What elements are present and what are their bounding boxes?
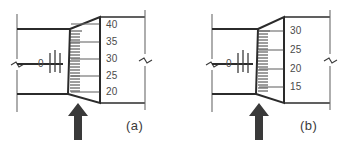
panel-b-caption: (b) xyxy=(300,118,317,133)
panel-a-drum-reading: 35 xyxy=(106,36,118,47)
figure-background xyxy=(0,0,349,151)
panel-b-drum-reading: 25 xyxy=(290,44,302,55)
panel-b-thimble xyxy=(256,17,284,103)
panel-a-thimble xyxy=(68,17,100,103)
panel-a-drum-reading: 20 xyxy=(106,86,118,97)
micrometer-scale-figure xyxy=(0,0,349,151)
panel-a-zero-label: 0 xyxy=(38,58,44,69)
panel-b-drum-reading: 15 xyxy=(290,81,302,92)
panel-b-drum-reading: 20 xyxy=(290,63,302,74)
panel-a-drum-reading: 30 xyxy=(106,53,118,64)
panel-a-drum-reading: 25 xyxy=(106,70,118,81)
panel-a-drum-reading: 40 xyxy=(106,19,118,30)
panel-b-zero-label: 0 xyxy=(226,58,232,69)
panel-a-caption: (a) xyxy=(126,118,143,133)
panel-b-drum-reading: 30 xyxy=(290,25,302,36)
